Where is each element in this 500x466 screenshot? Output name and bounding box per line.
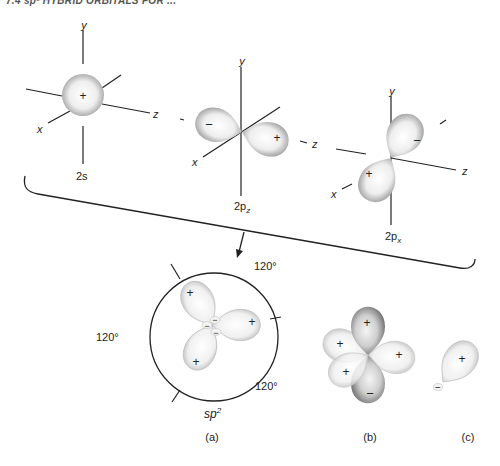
sign-plus: + (458, 352, 465, 366)
z-axis-tail (180, 119, 184, 120)
arrow-shaft (239, 232, 244, 252)
orbital-2px: − + y z x 2px (330, 85, 468, 245)
x-label: x (36, 123, 43, 135)
sign-plus: + (186, 286, 193, 300)
y-label: y (238, 55, 246, 67)
x-label: x (191, 156, 198, 168)
orbital-2s: + y z x 2s (26, 19, 159, 182)
sign-plus: + (395, 348, 402, 362)
sign-minus: − (435, 382, 441, 393)
sp2-hybrid-panel: + + + − − − 120° 120° 120° sp2 (a) (96, 260, 281, 443)
lobe-positive (351, 149, 406, 209)
y-label: y (388, 85, 396, 97)
orbital-2pz: − + y z x 2pz (180, 55, 318, 215)
z-label: z (461, 165, 468, 177)
z-label: z (152, 108, 159, 120)
orbital-label-2px: 2px (385, 230, 402, 245)
orbital-label-2pz: 2pz (234, 200, 250, 215)
combination-brace (24, 176, 475, 268)
lobe-negative (376, 107, 431, 167)
panel-label-b: (b) (363, 431, 376, 443)
single-hybrid-panel: + − (c) (430, 334, 485, 443)
angle-label-top: 120° (254, 260, 277, 272)
sign-minus: − (205, 117, 213, 132)
lobe-positive (238, 116, 293, 161)
sign-minus: − (204, 321, 209, 331)
sign-minus: − (212, 315, 217, 325)
orbital-label-2s: 2s (76, 170, 88, 182)
x-axis (342, 184, 352, 189)
x-label: x (330, 188, 337, 200)
sign-plus: + (248, 315, 255, 329)
x-axis-back (102, 75, 121, 88)
sign-minus: − (413, 133, 421, 148)
sign-minus: − (366, 386, 374, 401)
arrow-head-icon (236, 249, 243, 258)
sign-plus: + (273, 131, 280, 145)
tick-mark (172, 390, 180, 402)
x-axis-back (440, 120, 446, 124)
z-axis (391, 158, 456, 170)
sign-plus: + (363, 316, 370, 330)
y-label: y (80, 19, 88, 31)
panel-label-a: (a) (205, 431, 218, 443)
panel-label-c: (c) (462, 431, 475, 443)
lobe-negative (191, 103, 246, 148)
sp2-label: sp2 (204, 406, 222, 421)
axis-left (26, 89, 62, 96)
sign-minus: − (213, 328, 218, 338)
sign-plus: + (336, 337, 343, 351)
x-axis (48, 111, 70, 123)
tick-mark (171, 264, 180, 279)
sign-plus: + (365, 167, 372, 181)
combined-orbitals-panel: + + + + − (b) (318, 307, 416, 443)
z-axis (300, 141, 307, 143)
sign-plus: + (79, 89, 86, 103)
axis-left (336, 149, 366, 154)
sign-plus: + (342, 365, 349, 379)
z-label: z (311, 138, 318, 150)
orbital-diagram: + y z x 2s − + y z x 2pz − + y z x 2px (0, 0, 500, 466)
angle-label-left: 120° (96, 331, 119, 343)
z-axis (102, 104, 150, 113)
sign-plus: + (192, 355, 199, 369)
angle-label-bottom: 120° (255, 380, 278, 392)
